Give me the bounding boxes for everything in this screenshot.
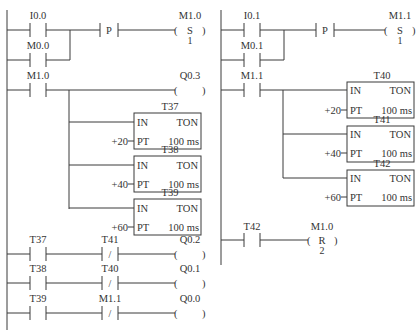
timer-preset: +40 <box>112 179 128 190</box>
timer-name: T38 <box>162 144 179 155</box>
coil-paren-left: ( <box>174 308 178 320</box>
coil-paren-left: ( <box>174 278 178 290</box>
contact-label: T37 <box>30 234 47 245</box>
timer-pt: PT <box>137 136 150 147</box>
timer-kind: TON <box>390 85 412 96</box>
nc-contact-label: T40 <box>102 263 119 274</box>
coil-label: Q0.2 <box>180 234 201 245</box>
timer-in: IN <box>350 129 361 140</box>
left-rung-4: T38 T40 / Q0.1 ( ) <box>7 263 206 290</box>
timer-pt: PT <box>137 222 150 233</box>
timer-kind: TON <box>390 129 412 140</box>
timer-preset: +20 <box>112 136 128 147</box>
nc-contact-label: T41 <box>102 234 119 245</box>
contact-label: T39 <box>30 293 47 304</box>
right-network: I0.1 M0.1 P M1.1 ( S ) 1 M1.1 <box>221 10 416 265</box>
coil-count: 1 <box>398 35 403 46</box>
timer-in: IN <box>137 117 148 128</box>
coil-paren-right: ) <box>202 308 206 320</box>
timer-pt: PT <box>350 192 363 203</box>
coil-paren-left: ( <box>174 85 178 97</box>
left-rung-1: I0.0 M0.0 P M1.0 ( S ) 1 <box>7 10 206 67</box>
timer-kind: TON <box>177 203 199 214</box>
left-network: I0.0 M0.0 P M1.0 ( S ) 1 M1.0 <box>7 10 206 330</box>
nc-slash: / <box>109 278 112 289</box>
contact-label-m1-1: M1.1 <box>241 70 263 81</box>
timer-pt: PT <box>137 179 150 190</box>
timer-in: IN <box>137 203 148 214</box>
contact-label-m1-0: M1.0 <box>27 70 49 81</box>
positive-edge-p: P <box>106 25 112 36</box>
timer-name: T37 <box>162 101 179 112</box>
timer-preset: +60 <box>112 222 128 233</box>
timer-in: IN <box>350 173 361 184</box>
timer-t37: T37 IN TON +20 PT 100 ms <box>69 101 201 149</box>
coil-paren-left: ( <box>384 25 388 37</box>
coil-paren-right: ) <box>334 235 338 247</box>
nc-contact-label: M1.1 <box>99 293 121 304</box>
timer-pt: PT <box>350 148 363 159</box>
timer-t39: T39 IN TON +60 PT 100 ms <box>69 187 201 235</box>
timer-preset: +40 <box>325 148 341 159</box>
coil-label: Q0.0 <box>180 293 201 304</box>
timer-name: T40 <box>374 70 391 81</box>
timer-t42: T42 IN TON +60 PT 100 ms <box>283 158 414 206</box>
coil-label-m1-0: M1.0 <box>179 10 201 21</box>
contact-label-m0-0: M0.0 <box>27 40 49 51</box>
timer-kind: TON <box>177 160 199 171</box>
contact-label-t42: T42 <box>244 221 261 232</box>
coil-paren-right: ) <box>202 249 206 261</box>
contact-label-m0-1: M0.1 <box>241 40 263 51</box>
nc-slash: / <box>109 249 112 260</box>
ladder-diagram: I0.0 M0.0 P M1.0 ( S ) 1 M1.0 <box>0 0 420 330</box>
timer-base: 100 ms <box>381 192 412 203</box>
timer-kind: TON <box>390 173 412 184</box>
coil-paren-right: ) <box>412 25 416 37</box>
timer-name: T39 <box>162 187 179 198</box>
coil-paren-right: ) <box>202 85 206 97</box>
left-rung-5: T39 M1.1 / Q0.0 ( ) <box>7 293 206 320</box>
coil-label-q0-3: Q0.3 <box>180 70 201 81</box>
timer-kind: TON <box>177 117 199 128</box>
contact-label-i0-0: I0.0 <box>30 10 47 21</box>
coil-count: 1 <box>188 35 193 46</box>
timer-in: IN <box>350 85 361 96</box>
timer-name: T42 <box>374 158 391 169</box>
right-rung-2: M1.1 T40 IN TON +20 PT 100 ms T41 <box>221 70 414 206</box>
coil-label: Q0.1 <box>180 263 201 274</box>
timer-t41: T41 IN TON +40 PT 100 ms <box>283 114 414 162</box>
timer-t40: T40 IN TON +20 PT 100 ms <box>325 70 414 118</box>
right-rung-1: I0.1 M0.1 P M1.1 ( S ) 1 <box>221 10 416 67</box>
right-rung-3: T42 M1.0 ( R ) 2 <box>221 221 338 256</box>
coil-paren-left: ( <box>307 235 311 247</box>
coil-label-m1-0: M1.0 <box>311 221 333 232</box>
coil-paren-right: ) <box>202 25 206 37</box>
coil-paren-left: ( <box>174 25 178 37</box>
timer-pt: PT <box>350 105 363 116</box>
timer-name: T41 <box>374 114 391 125</box>
left-rung-3: T37 T41 / Q0.2 ( ) <box>7 234 206 261</box>
coil-paren-right: ) <box>202 278 206 290</box>
nc-slash: / <box>109 308 112 319</box>
coil-count: 2 <box>320 245 325 256</box>
timer-base: 100 ms <box>168 222 199 233</box>
timer-preset: +60 <box>325 192 341 203</box>
positive-edge-p: P <box>322 25 328 36</box>
timer-preset: +20 <box>325 105 341 116</box>
coil-label-m1-1: M1.1 <box>389 10 411 21</box>
timer-in: IN <box>137 160 148 171</box>
timer-t38: T38 IN TON +40 PT 100 ms <box>69 144 201 192</box>
coil-paren-left: ( <box>174 249 178 261</box>
contact-label: T38 <box>30 263 47 274</box>
contact-label-i0-1: I0.1 <box>244 10 261 21</box>
